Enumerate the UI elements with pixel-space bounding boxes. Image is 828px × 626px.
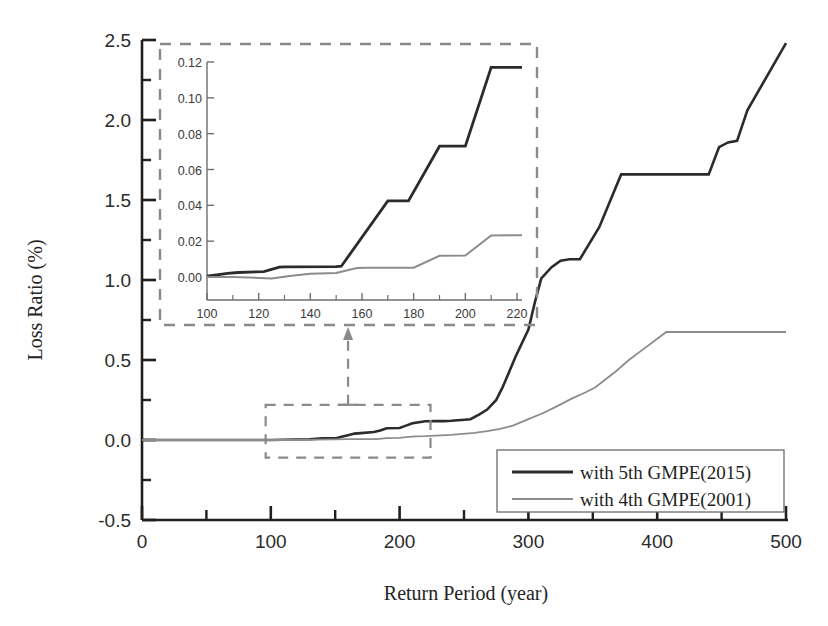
- main-series-group: [142, 43, 786, 440]
- inset-x-tick-labels: 100120140160180200220: [197, 307, 528, 321]
- zoom-source-rectangle: [266, 405, 431, 458]
- inset-x-tick-label: 100: [197, 307, 218, 321]
- x-tick-label: 200: [384, 531, 416, 552]
- main-axes: [142, 40, 788, 520]
- x-tick-label: 0: [137, 531, 148, 552]
- x-axis-title: Return Period (year): [384, 582, 548, 605]
- figure-canvas: -0.50.00.51.01.52.02.5 0100200300400500 …: [0, 0, 828, 626]
- y-tick-label: -0.5: [98, 510, 131, 531]
- inset-y-ticks: [207, 62, 214, 277]
- y-tick-label: 1.5: [105, 190, 131, 211]
- inset-x-ticks: [207, 293, 517, 300]
- inset-y-tick-label: 0.00: [178, 271, 202, 285]
- legend-label: with 4th GMPE(2001): [580, 489, 751, 511]
- inset-y-tick-label: 0.12: [178, 56, 202, 70]
- inset-x-tick-label: 220: [507, 307, 528, 321]
- y-tick-label: 2.5: [105, 30, 131, 51]
- y-axis-tick-labels: -0.50.00.51.01.52.02.5: [98, 30, 131, 531]
- series-line: [142, 332, 786, 440]
- x-axis-tick-labels: 0100200300400500: [137, 531, 802, 552]
- legend[interactable]: with 5th GMPE(2015)with 4th GMPE(2001): [497, 450, 784, 512]
- x-tick-label: 300: [513, 531, 545, 552]
- series-line: [142, 43, 786, 440]
- y-axis-title: Loss Ratio (%): [24, 239, 47, 360]
- inset-x-tick-label: 120: [248, 307, 269, 321]
- loss-ratio-chart: -0.50.00.51.01.52.02.5 0100200300400500 …: [0, 0, 828, 626]
- inset-y-tick-label: 0.02: [178, 235, 202, 249]
- inset-dashed-border: [160, 44, 537, 325]
- inset-y-tick-label: 0.04: [178, 199, 202, 213]
- x-tick-label: 500: [770, 531, 802, 552]
- inset-y-tick-label: 0.10: [178, 92, 202, 106]
- y-tick-label: 0.5: [105, 350, 131, 371]
- x-tick-label: 400: [641, 531, 673, 552]
- inset-series-group: [202, 67, 522, 278]
- inset-y-tick-label: 0.08: [178, 128, 202, 142]
- inset-x-tick-label: 180: [403, 307, 424, 321]
- legend-label: with 5th GMPE(2015): [580, 462, 751, 484]
- y-tick-label: 1.0: [105, 270, 131, 291]
- inset-x-tick-label: 200: [455, 307, 476, 321]
- inset-y-tick-label: 0.06: [178, 164, 202, 178]
- inset-series-line: [202, 67, 522, 277]
- x-tick-label: 100: [255, 531, 287, 552]
- y-axis-ticks: [142, 40, 156, 520]
- inset-y-tick-labels: 0.000.020.040.060.080.100.12: [178, 56, 202, 285]
- inset-axes: [207, 62, 522, 300]
- y-tick-label: 0.0: [105, 430, 131, 451]
- zoom-connector-arrowhead: [343, 327, 353, 340]
- inset-x-tick-label: 140: [300, 307, 321, 321]
- inset-x-tick-label: 160: [352, 307, 373, 321]
- y-tick-label: 2.0: [105, 110, 131, 131]
